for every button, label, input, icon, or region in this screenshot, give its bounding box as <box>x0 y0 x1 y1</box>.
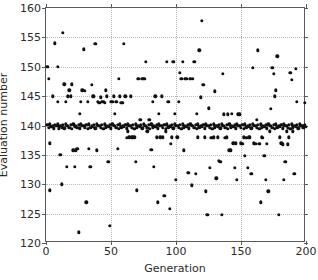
data-point <box>235 178 238 181</box>
data-point <box>121 101 124 104</box>
data-point <box>77 231 80 234</box>
data-point <box>281 143 284 146</box>
gridline-horizontal <box>46 214 304 215</box>
data-point <box>222 113 225 116</box>
data-point <box>270 66 273 69</box>
data-point <box>85 201 88 204</box>
data-point <box>48 188 51 191</box>
data-point <box>148 118 151 121</box>
data-point <box>156 201 159 204</box>
data-point <box>200 19 203 22</box>
data-point <box>75 147 78 150</box>
y-tick-label: 160 <box>20 2 41 15</box>
x-tick-mark-top <box>46 4 47 8</box>
data-point <box>53 42 56 45</box>
data-point <box>178 71 181 74</box>
y-tick-label: 150 <box>20 60 41 73</box>
data-point <box>250 172 253 175</box>
data-point <box>220 213 223 216</box>
data-point <box>283 160 286 163</box>
data-point <box>293 172 296 175</box>
data-point <box>65 165 68 168</box>
x-tick-mark-top <box>241 4 242 8</box>
data-point <box>46 65 49 68</box>
data-point <box>139 118 142 121</box>
data-point <box>202 83 205 86</box>
data-point <box>83 89 86 92</box>
x-tick-mark-top <box>306 4 307 8</box>
x-tick-label: 200 <box>296 245 317 258</box>
x-axis-title: Generation <box>144 262 205 275</box>
data-point <box>137 77 140 80</box>
data-point <box>179 77 182 80</box>
data-point <box>114 100 117 103</box>
y-tick-mark <box>42 155 46 156</box>
data-point <box>192 60 195 63</box>
data-point <box>150 148 153 151</box>
data-point <box>295 100 298 103</box>
data-point <box>161 136 164 139</box>
y-tick-label: 145 <box>20 90 41 103</box>
data-point <box>213 90 216 93</box>
data-point <box>88 165 91 168</box>
y-axis-title: Evaluation number <box>0 73 10 177</box>
data-point <box>203 136 206 139</box>
data-point <box>234 141 237 144</box>
y-tick-mark-right <box>304 37 308 38</box>
data-point <box>166 100 169 103</box>
data-point <box>73 165 76 168</box>
data-point <box>254 142 257 145</box>
data-point <box>144 60 147 63</box>
x-tick-label: 50 <box>104 245 118 258</box>
data-point <box>248 136 251 139</box>
data-point <box>196 136 199 139</box>
data-point <box>124 94 127 97</box>
data-point <box>94 42 97 45</box>
data-point <box>185 77 188 80</box>
data-point <box>257 142 260 145</box>
data-point <box>92 94 95 97</box>
data-point <box>287 136 290 139</box>
data-point <box>152 165 155 168</box>
data-point <box>60 183 63 186</box>
data-point <box>204 190 207 193</box>
data-point <box>107 160 110 163</box>
gridline-horizontal <box>46 37 304 38</box>
data-point <box>218 160 221 163</box>
data-point <box>151 100 154 103</box>
x-tick-mark-top <box>176 4 177 8</box>
y-tick-label: 135 <box>20 148 41 161</box>
data-point <box>263 154 266 157</box>
data-point <box>273 94 276 97</box>
data-point <box>56 100 59 103</box>
data-point <box>170 136 173 139</box>
data-point <box>87 147 90 150</box>
data-point <box>122 42 125 45</box>
data-point <box>230 112 233 115</box>
data-point <box>198 49 201 52</box>
data-point <box>117 77 120 80</box>
data-point <box>126 130 129 133</box>
data-point <box>133 136 136 139</box>
data-point <box>216 136 219 139</box>
y-tick-mark <box>42 96 46 97</box>
y-tick-label: 140 <box>20 119 41 132</box>
scatter-plot-figure: Evaluation number Generation 12012513013… <box>0 0 318 280</box>
y-tick-mark <box>42 37 46 38</box>
data-point <box>176 136 179 139</box>
data-point <box>174 178 177 181</box>
data-point <box>286 143 289 146</box>
data-point <box>276 54 279 57</box>
data-point <box>105 94 108 97</box>
data-point <box>99 96 102 99</box>
y-tick-mark-right <box>304 184 308 185</box>
data-point <box>261 136 264 139</box>
data-point <box>135 188 138 191</box>
data-point <box>78 112 81 115</box>
data-point <box>282 178 285 181</box>
data-point <box>51 94 54 97</box>
y-tick-label: 155 <box>20 31 41 44</box>
data-point <box>169 142 172 145</box>
data-point <box>255 118 258 121</box>
data-point <box>226 113 229 116</box>
